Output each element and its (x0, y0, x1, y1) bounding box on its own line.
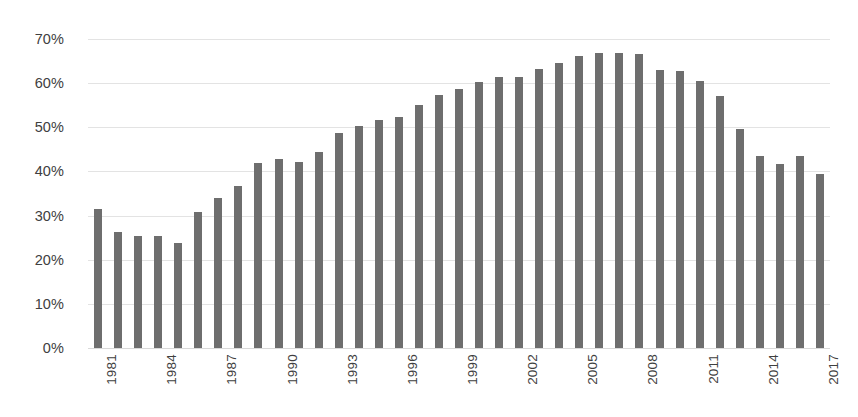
x-axis-label-1999: 1999 (465, 354, 480, 385)
x-axis-label-1984: 1984 (164, 354, 179, 385)
bar-1987 (214, 198, 222, 348)
y-axis-label-50: 50% (35, 119, 64, 135)
bar-2017 (816, 174, 824, 348)
gridline-0 (88, 348, 830, 349)
y-axis-label-60: 60% (35, 75, 64, 91)
bar-2012 (716, 96, 724, 348)
x-axis-label-2008: 2008 (645, 354, 660, 385)
bar-2001 (495, 77, 503, 348)
bar-2008 (635, 54, 643, 348)
bar-1999 (455, 89, 463, 348)
x-axis-label-2014: 2014 (766, 354, 781, 385)
bar-1992 (315, 152, 323, 348)
bar-2003 (535, 69, 543, 348)
bar-2002 (515, 77, 523, 348)
bar-2005 (575, 56, 583, 348)
bar-1988 (234, 186, 242, 348)
bar-1983 (134, 236, 142, 348)
x-axis-tick-labels: 1981198419871990199319961999200220052008… (88, 352, 830, 416)
bar-2004 (555, 63, 563, 348)
bar-1993 (335, 133, 343, 348)
bar-2006 (595, 53, 603, 348)
bar-2011 (696, 81, 704, 348)
bar-1998 (435, 95, 443, 348)
bar-1991 (295, 162, 303, 348)
bar-2010 (676, 71, 684, 348)
bar-1996 (395, 117, 403, 348)
y-axis-label-30: 30% (35, 208, 64, 224)
bar-1986 (194, 212, 202, 348)
x-axis-label-2011: 2011 (706, 354, 721, 384)
x-axis-label-1981: 1981 (104, 354, 119, 385)
bar-2009 (656, 70, 664, 348)
bar-1997 (415, 105, 423, 348)
x-axis-label-1996: 1996 (405, 354, 420, 385)
bar-1982 (114, 232, 122, 348)
bar-1989 (254, 163, 262, 348)
bar-2014 (756, 156, 764, 348)
x-axis-label-2005: 2005 (585, 354, 600, 385)
x-axis-label-1990: 1990 (285, 354, 300, 385)
bar-2013 (736, 129, 744, 348)
bar-1990 (275, 159, 283, 348)
bar-1984 (154, 236, 162, 348)
bar-1995 (375, 120, 383, 348)
x-axis-label-1987: 1987 (224, 354, 239, 385)
bar-1981 (94, 209, 102, 348)
x-axis-label-2002: 2002 (525, 354, 540, 385)
bar-1985 (174, 243, 182, 349)
y-axis-label-0: 0% (43, 340, 64, 356)
bar-2007 (615, 53, 623, 348)
y-axis-label-10: 10% (35, 296, 64, 312)
bar-2015 (776, 164, 784, 348)
y-axis-label-20: 20% (35, 252, 64, 268)
x-axis-label-2017: 2017 (826, 354, 841, 385)
y-axis-tick-labels: 0%10%20%30%40%50%60%70% (0, 39, 78, 348)
bar-2000 (475, 82, 483, 348)
bar-chart: 0%10%20%30%40%50%60%70% 1981198419871990… (0, 0, 858, 417)
bars-layer (88, 39, 830, 348)
y-axis-label-70: 70% (35, 31, 64, 47)
y-axis-label-40: 40% (35, 163, 64, 179)
bar-2016 (796, 156, 804, 348)
bar-1994 (355, 126, 363, 348)
x-axis-label-1993: 1993 (345, 354, 360, 385)
